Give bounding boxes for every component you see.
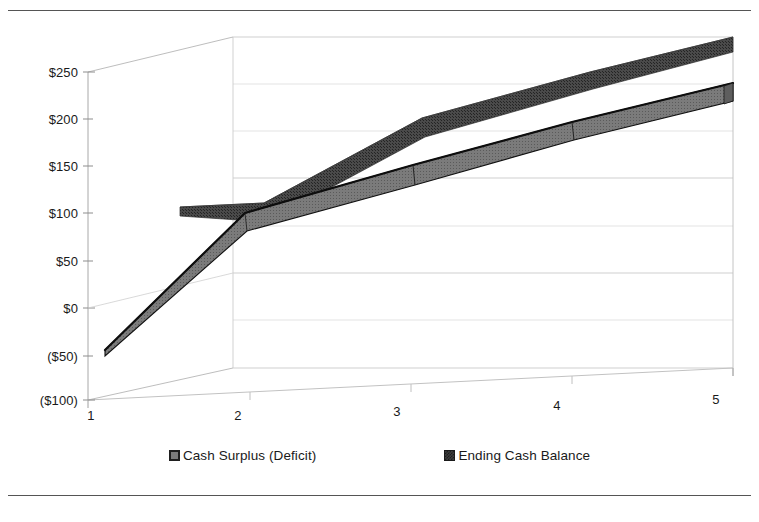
chart-legend: Cash Surplus (Deficit) Ending Cash Balan… [0,448,759,463]
x-tick-label-2: 2 [226,408,250,423]
y-tick-label-neg100: ($100) [0,393,78,408]
plot-area [0,0,759,522]
legend-item-cash-surplus[interactable]: Cash Surplus (Deficit) [169,448,317,463]
legend-swatch-icon-ending-cash-balance [444,450,455,461]
x-tick-label-4: 4 [545,398,569,413]
legend-swatch-icon-cash-surplus [169,450,180,461]
y-tick-label-100: $100 [0,206,78,221]
y-tick-label-200: $200 [0,112,78,127]
x-tick-label-5: 5 [704,392,728,407]
x-tick-label-1: 1 [79,408,103,423]
y-tick-label-0: $0 [0,301,78,316]
legend-label-ending-cash-balance: Ending Cash Balance [458,448,590,463]
legend-item-ending-cash-balance[interactable]: Ending Cash Balance [444,448,590,463]
chart-container: $250 $200 $150 $100 $50 $0 ($50) ($100) … [0,0,759,522]
y-tick-label-150: $150 [0,159,78,174]
legend-label-cash-surplus: Cash Surplus (Deficit) [183,448,317,463]
y-tick-label-50: $50 [0,254,78,269]
x-axis-ticks [88,368,733,408]
x-tick-label-3: 3 [385,404,409,419]
y-tick-label-neg50: ($50) [0,349,78,364]
y-tick-label-250: $250 [0,65,78,80]
